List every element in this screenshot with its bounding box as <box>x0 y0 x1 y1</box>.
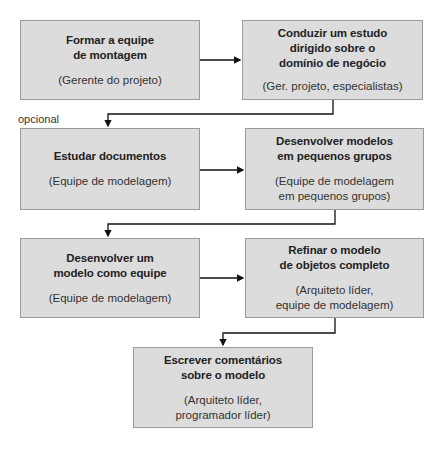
step-small-group-models: Desenvolver modelos em pequenos grupos (… <box>245 128 424 210</box>
step-role: (Gerente do projeto) <box>58 73 162 88</box>
step-role: (Equipe de modelagem) <box>49 174 172 189</box>
step-role: (Arquiteto líder, programador líder) <box>175 393 270 423</box>
step-refine-model: Refinar o modelo de objetos completo (Ar… <box>245 238 424 318</box>
step-role: (Equipe de modelagem em pequenos grupos) <box>275 174 394 204</box>
step-title: Conduzir um estudo dirigido sobre o domí… <box>278 26 387 71</box>
optional-label: opcional <box>18 113 59 125</box>
step-role: (Equipe de modelagem) <box>49 291 172 306</box>
step-role: (Arquiteto líder, equipe de modelagem) <box>276 283 394 313</box>
step-write-comments: Escrever comentários sobre o modelo (Arq… <box>133 347 313 428</box>
step-form-team: Formar a equipe de montagem (Gerente do … <box>20 20 200 100</box>
step-title: Desenvolver modelos em pequenos grupos <box>276 134 393 164</box>
step-title: Formar a equipe de montagem <box>66 33 154 63</box>
step-title: Escrever comentários sobre o modelo <box>164 353 282 383</box>
step-study-documents: Estudar documentos (Equipe de modelagem) <box>20 128 200 210</box>
step-title: Estudar documentos <box>54 149 167 164</box>
step-role: (Ger. projeto, especialistas) <box>263 79 403 94</box>
step-domain-study: Conduzir um estudo dirigido sobre o domí… <box>242 20 423 100</box>
step-title: Refinar o modelo de objetos completo <box>280 243 390 273</box>
step-team-model: Desenvolver um modelo como equipe (Equip… <box>20 238 200 318</box>
step-title: Desenvolver um modelo como equipe <box>53 251 166 281</box>
